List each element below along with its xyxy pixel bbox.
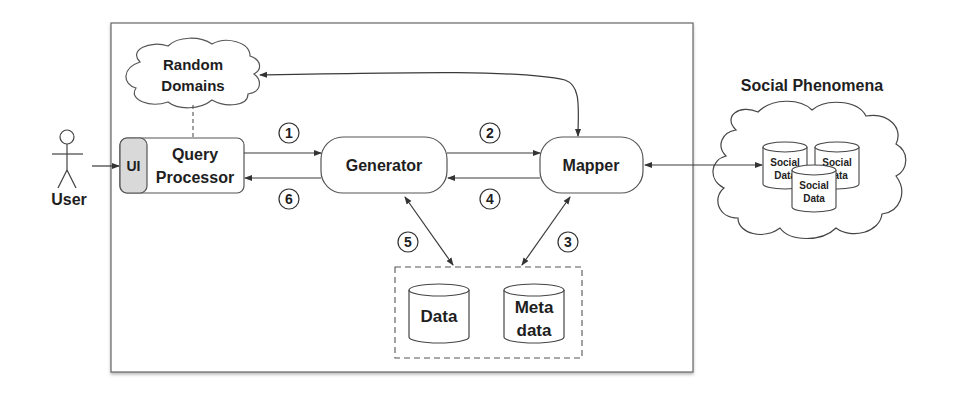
mapper-label: Mapper bbox=[563, 157, 620, 174]
query-processor-line2: Processor bbox=[156, 169, 234, 186]
step-badge-6: 6 bbox=[279, 189, 299, 209]
user-actor-icon bbox=[52, 130, 83, 188]
step-badge-1: 1 bbox=[279, 123, 299, 143]
random-domains-line1: Random bbox=[163, 56, 223, 73]
random-domains-line2: Domains bbox=[161, 77, 224, 94]
social-phenomena-title: Social Phenomena bbox=[741, 77, 883, 94]
social-data-3-line1: Social bbox=[799, 180, 829, 191]
metadata-store-line2: data bbox=[517, 321, 553, 340]
step-badge-3: 3 bbox=[558, 232, 578, 252]
svg-text:1: 1 bbox=[285, 125, 293, 141]
social-data-1-line1: Social bbox=[770, 157, 800, 168]
query-processor-line1: Query bbox=[172, 146, 218, 163]
step-badge-4: 4 bbox=[480, 189, 500, 209]
social-data-3-line2: Data bbox=[803, 193, 825, 204]
svg-text:2: 2 bbox=[486, 125, 494, 141]
architecture-diagram: User Random Domains UI Query Processor G… bbox=[0, 0, 953, 402]
generator-label: Generator bbox=[346, 157, 422, 174]
user-label: User bbox=[51, 191, 87, 208]
svg-text:3: 3 bbox=[564, 234, 572, 250]
ui-label: UI bbox=[127, 158, 141, 174]
svg-text:6: 6 bbox=[285, 191, 293, 207]
svg-text:4: 4 bbox=[486, 191, 494, 207]
svg-text:5: 5 bbox=[404, 234, 412, 250]
metadata-store-line1: Meta bbox=[515, 298, 554, 317]
step-badge-5: 5 bbox=[398, 232, 418, 252]
data-store-label: Data bbox=[421, 307, 458, 326]
step-badge-2: 2 bbox=[480, 123, 500, 143]
random-domains-cloud bbox=[126, 38, 260, 108]
